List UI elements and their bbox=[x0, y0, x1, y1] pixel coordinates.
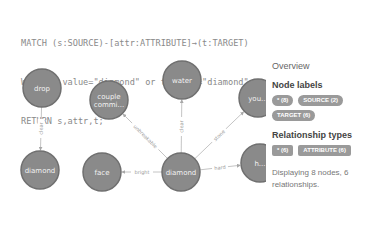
relationship-edge[interactable]: hard bbox=[200, 163, 240, 172]
graph-node-diamond_center[interactable]: diamond bbox=[162, 153, 200, 191]
relationship-types-heading: Relationship types bbox=[272, 130, 374, 140]
relationship-edge[interactable]: unbreakable bbox=[123, 114, 167, 158]
relationship-label: clear bbox=[178, 119, 184, 132]
relationship-label: unbreakable bbox=[132, 123, 158, 149]
graph-node-water[interactable]: water bbox=[163, 61, 201, 99]
node-label-badge-source[interactable]: SOURCE (2) bbox=[298, 95, 343, 106]
graph-node-face[interactable]: face bbox=[83, 153, 121, 191]
node-caption: face bbox=[95, 169, 110, 177]
relationship-edge[interactable]: bright bbox=[122, 169, 162, 176]
overview-title: Overview bbox=[272, 61, 374, 71]
node-caption: diamond bbox=[25, 167, 56, 175]
relationship-types-list: * (6) ATTRIBUTE (6) bbox=[272, 145, 362, 156]
relationship-edge[interactable]: stone bbox=[195, 112, 244, 159]
query-line-1: MATCH (s:SOURCE)-[attr:ATTRIBUTE]→(t:TAR… bbox=[21, 37, 249, 50]
node-caption: commi... bbox=[94, 101, 124, 109]
node-labels-list: * (8) SOURCE (2) TARGET (6) bbox=[272, 95, 362, 121]
node-caption: water bbox=[172, 77, 192, 85]
node-labels-heading: Node labels bbox=[272, 80, 374, 90]
node-caption: you... bbox=[248, 95, 268, 103]
node-caption: couple bbox=[97, 93, 120, 101]
node-caption: drop bbox=[34, 85, 50, 93]
graph-node-couple[interactable]: couplecommi... bbox=[90, 81, 128, 119]
overview-panel: Overview Node labels * (8) SOURCE (2) TA… bbox=[266, 50, 374, 228]
node-label-badge-all[interactable]: * (8) bbox=[272, 95, 293, 106]
relationship-edge[interactable]: clear bbox=[178, 100, 185, 153]
node-label-badge-target[interactable]: TARGET (6) bbox=[272, 110, 315, 121]
node-caption: diamond bbox=[166, 169, 197, 177]
relationship-badge-attribute[interactable]: ATTRIBUTE (6) bbox=[298, 145, 351, 156]
node-caption: h... bbox=[254, 160, 265, 168]
overview-description: Displaying 8 nodes, 6 relationships. bbox=[272, 167, 366, 191]
graph-node-drop[interactable]: drop bbox=[23, 69, 61, 107]
relationship-label: hard bbox=[214, 164, 226, 171]
relationship-edge[interactable]: clear bbox=[37, 107, 44, 150]
graph-node-diamond_left[interactable]: diamond bbox=[21, 151, 59, 189]
relationship-badge-all[interactable]: * (6) bbox=[272, 145, 293, 156]
relationship-label: bright bbox=[135, 169, 150, 176]
relationship-label: clear bbox=[38, 121, 44, 134]
